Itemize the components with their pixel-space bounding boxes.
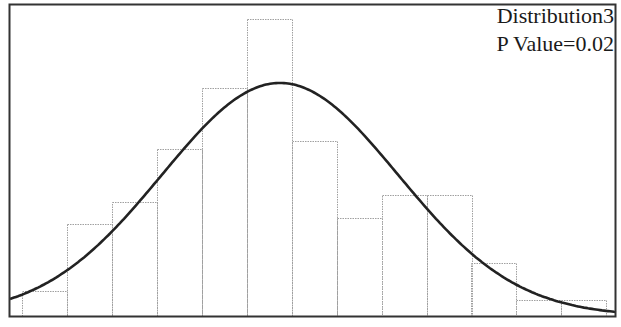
normal-fit-curve [10, 83, 616, 312]
histogram-bar [383, 196, 428, 317]
histogram-bar [428, 196, 473, 317]
legend-series-name: Distribution3 [496, 2, 614, 30]
histogram-bar [293, 142, 338, 317]
histogram-bar [158, 150, 203, 317]
histogram-bars [23, 20, 607, 317]
histogram-bar [338, 219, 383, 317]
legend-p-value: P Value=0.02 [496, 30, 614, 58]
legend: Distribution3 P Value=0.02 [496, 2, 614, 58]
histogram-bar [23, 292, 68, 317]
histogram-bar [113, 203, 158, 317]
histogram-bar [517, 301, 562, 317]
histogram-bar [248, 20, 293, 317]
